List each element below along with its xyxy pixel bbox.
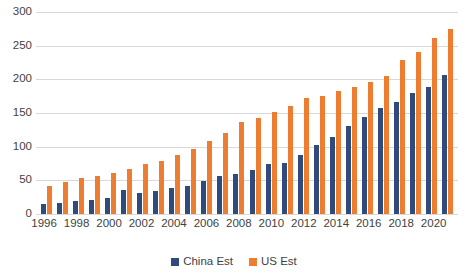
y-axis: 050100150200250300 [0, 12, 32, 214]
bar-group [199, 12, 215, 214]
bar [432, 38, 437, 214]
bar [143, 164, 148, 214]
bar [233, 174, 238, 214]
plot-area [36, 12, 458, 214]
bar [378, 108, 383, 214]
y-axis-tick-label: 150 [13, 107, 32, 119]
bar [272, 112, 277, 214]
bar [201, 181, 206, 214]
bar [217, 176, 222, 214]
bar-group [247, 12, 263, 214]
bar [352, 87, 357, 214]
bar-group [134, 12, 150, 214]
bar [368, 82, 373, 214]
bar [41, 204, 46, 214]
chart-legend: China EstUS Est [0, 256, 468, 268]
bar-group [183, 12, 199, 214]
x-axis-tick-label: 2016 [356, 218, 382, 230]
bar [282, 163, 287, 214]
y-axis-tick-label: 200 [13, 74, 32, 86]
bar [63, 182, 68, 214]
bar [346, 126, 351, 214]
x-axis-tick-label: 2020 [421, 218, 447, 230]
bar [384, 76, 389, 214]
bar [416, 52, 421, 214]
bar [256, 118, 261, 214]
legend-swatch-icon [249, 258, 257, 266]
bar [410, 93, 415, 214]
x-axis-tick-label: 2018 [388, 218, 414, 230]
bar [159, 161, 164, 214]
bar-group [263, 12, 279, 214]
bar [336, 91, 341, 214]
y-axis-tick-label: 50 [19, 175, 32, 187]
bar [394, 102, 399, 214]
bar-group [440, 12, 456, 214]
legend-label: China Est [183, 256, 233, 268]
y-axis-tick-label: 300 [13, 6, 32, 18]
bar [288, 106, 293, 214]
bar [175, 155, 180, 214]
bar [320, 96, 325, 215]
legend-swatch-icon [171, 258, 179, 266]
bar [73, 201, 78, 214]
bar [442, 75, 447, 214]
bar-group [360, 12, 376, 214]
bar [448, 29, 453, 214]
legend-label: US Est [261, 256, 297, 268]
bar-group [231, 12, 247, 214]
bar-group [311, 12, 327, 214]
bar [191, 149, 196, 214]
bar-group [102, 12, 118, 214]
x-axis-tick-label: 2012 [291, 218, 317, 230]
bar [250, 170, 255, 214]
x-axis-tick-label: 2014 [323, 218, 349, 230]
bar [111, 173, 116, 214]
bar [57, 203, 62, 214]
bar [314, 145, 319, 214]
bar [79, 178, 84, 214]
bar-group [38, 12, 54, 214]
bar [169, 188, 174, 214]
bar-group [279, 12, 295, 214]
y-axis-tick-label: 100 [13, 141, 32, 153]
bar [185, 186, 190, 214]
bar-group [54, 12, 70, 214]
x-axis-tick-label: 2004 [161, 218, 187, 230]
bar [137, 193, 142, 214]
bar [223, 133, 228, 214]
bar-group [118, 12, 134, 214]
bar-group [343, 12, 359, 214]
bar [89, 200, 94, 214]
bar [127, 169, 132, 214]
bar [153, 191, 158, 214]
bar-chart: 050100150200250300 199619982000200220042… [0, 0, 468, 280]
legend-item[interactable]: China Est [171, 256, 233, 268]
bar-group [376, 12, 392, 214]
bar-group [392, 12, 408, 214]
bar-groups [36, 12, 458, 214]
bar-group [167, 12, 183, 214]
x-axis-tick-label: 2000 [96, 218, 122, 230]
bar-group [424, 12, 440, 214]
bar [239, 122, 244, 214]
bar-group [86, 12, 102, 214]
bar [95, 176, 100, 214]
bar [207, 141, 212, 214]
bar [105, 198, 110, 214]
bar-group [70, 12, 86, 214]
legend-item[interactable]: US Est [249, 256, 297, 268]
x-axis-tick-label: 2002 [129, 218, 155, 230]
bar [304, 98, 309, 214]
x-axis-tick-label: 1998 [64, 218, 90, 230]
bar [426, 87, 431, 214]
x-axis: 1996199820002002200420062008201020122014… [36, 218, 458, 236]
gridline [36, 214, 458, 215]
bar-group [151, 12, 167, 214]
x-axis-tick-label: 2006 [194, 218, 220, 230]
bar-group [408, 12, 424, 214]
x-axis-tick-label: 2010 [259, 218, 285, 230]
bar-group [215, 12, 231, 214]
bar [121, 190, 126, 214]
x-axis-tick-label: 1996 [31, 218, 57, 230]
